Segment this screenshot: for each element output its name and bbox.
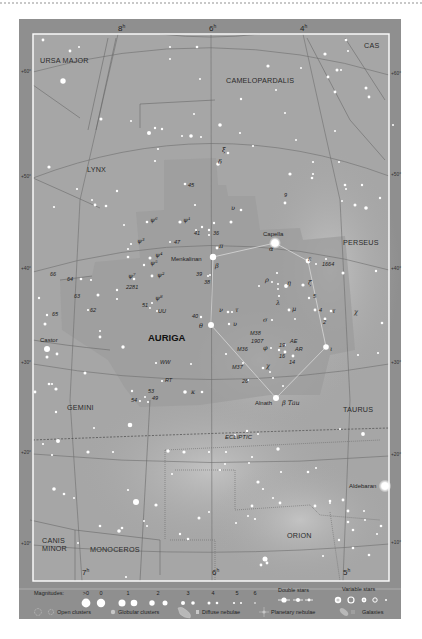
named-star-menkalinan: Menkalinan xyxy=(171,256,202,262)
star-label: ξ xyxy=(222,146,226,154)
magnitude-label: 2 xyxy=(156,590,159,596)
constellation-label: CAMELOPARDALIS xyxy=(226,76,294,85)
star-label: 41 xyxy=(194,230,200,236)
greek-letter-capella: α xyxy=(269,245,274,253)
dec-label-left: +50° xyxy=(21,174,31,179)
star-label: ψ¹ xyxy=(183,216,191,224)
star-label: 49 xyxy=(152,395,158,401)
star-label: 1664 xyxy=(322,261,334,267)
ecliptic-label: ECLIPTIC xyxy=(225,434,253,440)
star-label: M36 xyxy=(237,346,249,352)
star-label: τ xyxy=(332,307,336,315)
double-stars-label: Double stars xyxy=(278,587,309,593)
star-label: M37 xyxy=(232,364,244,370)
star-label: φ xyxy=(263,344,268,352)
auriga-label: AURIGA xyxy=(148,332,186,343)
star-label: 63 xyxy=(74,293,81,299)
star-label: σ xyxy=(263,316,268,324)
star-label: ψ⁷ xyxy=(128,272,136,280)
magnitude-label: 0 xyxy=(99,590,102,596)
constellation-label: ORION xyxy=(287,531,312,540)
dec-label-right: +10° xyxy=(391,540,401,545)
greek-letter-alnath: β Tau xyxy=(281,399,300,407)
constellation-label: GEMINI xyxy=(67,403,94,412)
magnitude-label: 1 xyxy=(126,590,129,596)
star-label: 26 xyxy=(241,378,249,384)
star-label: λ xyxy=(275,299,280,307)
star-label: μ xyxy=(292,305,296,313)
star-label: π xyxy=(218,242,224,250)
star-label: ζ xyxy=(308,279,312,287)
greek-letter-menkalinan: β xyxy=(214,262,219,270)
star-label: 36 xyxy=(213,230,220,236)
star-label: AE xyxy=(289,338,298,344)
open-clusters-label: Open clusters xyxy=(57,609,91,615)
dec-label-left: +40° xyxy=(21,266,31,271)
dec-label-right: +60° xyxy=(391,71,401,76)
constellation-label: MONOCEROS xyxy=(90,545,140,554)
globular-clusters-label: Globular clusters xyxy=(118,609,160,615)
dec-label-left: +30° xyxy=(21,360,31,365)
star-label: WW xyxy=(160,359,171,365)
star-label: UU xyxy=(158,308,166,314)
dec-label-left: +20° xyxy=(21,450,31,455)
star-label: ε xyxy=(308,255,312,263)
star-label: 2 xyxy=(322,319,326,325)
dec-label-left: +10° xyxy=(21,541,31,546)
star-label: 16 xyxy=(279,353,286,359)
named-star-aldebaran: Aldebaran xyxy=(349,483,376,489)
constellation-label: CAS xyxy=(364,41,379,50)
constellation-label: URSA MAJOR xyxy=(40,56,89,65)
star-label: 14 xyxy=(289,359,295,365)
variable-stars-label: Variable stars xyxy=(342,586,375,592)
dec-label-right: +40° xyxy=(391,266,401,271)
star-label: υ xyxy=(231,204,235,212)
star-label: 4 xyxy=(319,307,322,313)
star-label: 53 xyxy=(148,388,155,394)
dec-label-right: +30° xyxy=(391,360,401,365)
star-label: 64 xyxy=(67,276,73,282)
star-label: δ xyxy=(218,158,222,166)
named-star-capella: Capella xyxy=(263,231,284,237)
star-label: θ xyxy=(199,322,203,330)
star-label: 39 xyxy=(196,271,202,277)
constellation-label: MINOR xyxy=(42,544,67,553)
star-label: 47 xyxy=(174,239,181,245)
named-star-alnath: Alnath xyxy=(255,400,272,406)
constellation-label: PERSEUS xyxy=(343,238,379,247)
dec-label-right: +50° xyxy=(391,172,401,177)
magnitude-label: >0 xyxy=(83,590,89,596)
named-star-castor: Castor xyxy=(40,337,58,343)
star-label: ν xyxy=(219,306,223,314)
star-label: 51 xyxy=(142,302,148,308)
star-label: ρ xyxy=(264,276,269,284)
star-label: AR xyxy=(294,346,303,352)
magnitudes-label: Magnitudes: xyxy=(34,590,64,596)
magnitude-label: 4 xyxy=(211,590,214,596)
star-label: κ xyxy=(190,388,196,396)
star-label: η xyxy=(287,279,291,287)
star-label: 62 xyxy=(90,307,96,313)
dec-label-right: +20° xyxy=(391,452,401,457)
planetary-nebulae-label: Planetary nebulae xyxy=(271,609,315,615)
star-label: 40 xyxy=(192,313,199,319)
dec-label-left: +60° xyxy=(21,69,31,74)
galaxies-label: Galaxies xyxy=(362,609,384,615)
star-label: 9 xyxy=(284,192,287,198)
star-label: 38 xyxy=(204,279,211,285)
constellation-label: LYNX xyxy=(87,165,106,174)
star-label: 54 xyxy=(131,397,137,403)
magnitude-label: 5 xyxy=(235,590,238,596)
star-label: 19 xyxy=(279,342,285,348)
star-label: RT xyxy=(165,377,173,383)
star-chart: URSA MAJORCASCAMELOPARDALISLYNXPERSEUSGE… xyxy=(0,0,422,639)
diffuse-nebulae-label: Diffuse nebulae xyxy=(202,609,240,615)
magnitude-label: 6 xyxy=(253,590,256,596)
star-label: ψ² xyxy=(157,271,165,279)
star-label: ψ³ xyxy=(137,237,145,245)
star-label: ι xyxy=(330,345,333,353)
star-label: υ xyxy=(233,320,237,328)
star-label: ψ⁵ xyxy=(150,259,158,267)
star-label: 2281 xyxy=(125,284,138,290)
star-label: ψ⁶ xyxy=(150,216,158,224)
